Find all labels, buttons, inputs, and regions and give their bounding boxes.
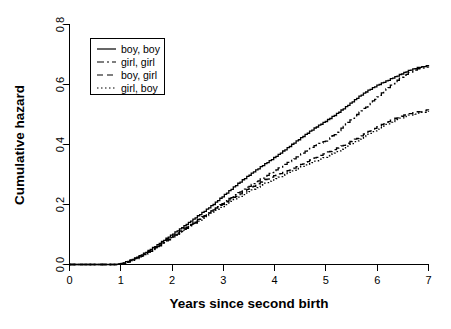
x-axis-title: Years since second birth bbox=[169, 296, 328, 311]
x-tick-label: 5 bbox=[323, 274, 329, 286]
series-line-girl--girl bbox=[70, 67, 429, 264]
series-line-boy--boy bbox=[70, 66, 429, 265]
legend-label-0: boy, boy bbox=[121, 43, 161, 55]
legend-label-1: girl, girl bbox=[121, 56, 155, 68]
x-tick-label: 3 bbox=[220, 274, 226, 286]
x-axis: 01234567 Years since second birth bbox=[66, 265, 431, 312]
cumulative-hazard-chart: 0.00.20.40.60.8 Cumulative hazard 012345… bbox=[0, 0, 451, 329]
y-axis-title: Cumulative hazard bbox=[12, 85, 27, 205]
x-tick-label: 0 bbox=[66, 274, 72, 286]
y-tick-label: 0.0 bbox=[54, 257, 66, 272]
y-tick-label: 0.6 bbox=[54, 77, 66, 92]
x-tick-label: 4 bbox=[272, 274, 278, 286]
y-tick-group: 0.00.20.40.60.8 bbox=[54, 17, 70, 272]
x-tick-label: 2 bbox=[169, 274, 175, 286]
y-tick-label: 0.4 bbox=[54, 137, 66, 152]
series-line-girl--boy bbox=[70, 111, 429, 264]
x-tick-label: 6 bbox=[374, 274, 380, 286]
y-axis: 0.00.20.40.60.8 Cumulative hazard bbox=[12, 17, 70, 272]
series-group bbox=[70, 66, 429, 265]
legend: boy, boygirl, girlboy, girlgirl, boy bbox=[91, 39, 165, 95]
x-tick-label: 1 bbox=[118, 274, 124, 286]
legend-label-2: boy, girl bbox=[121, 69, 157, 81]
y-tick-label: 0.2 bbox=[54, 197, 66, 212]
x-tick-label: 7 bbox=[425, 274, 431, 286]
y-tick-label: 0.8 bbox=[54, 17, 66, 32]
x-tick-group: 01234567 bbox=[66, 265, 431, 286]
legend-label-3: girl, boy bbox=[121, 82, 159, 94]
plot-canvas: 0.00.20.40.60.8 Cumulative hazard 012345… bbox=[0, 0, 451, 329]
